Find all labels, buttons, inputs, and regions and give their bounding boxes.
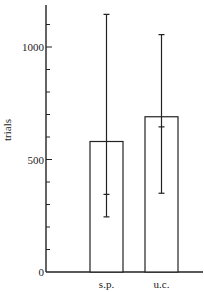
labels: 05001000trialss.p.u.c.: [1, 41, 170, 290]
x-tick-label: u.c.: [154, 278, 170, 290]
y-tick-label: 500: [28, 154, 45, 166]
axes: [46, 5, 203, 272]
y-tick-label: 0: [39, 266, 45, 278]
y-axis-label: trials: [1, 119, 13, 141]
bar-chart: 05001000trialss.p.u.c.: [0, 0, 204, 292]
x-tick-label: s.p.: [99, 278, 115, 290]
bars: [90, 14, 178, 272]
y-tick-label: 1000: [22, 41, 45, 53]
